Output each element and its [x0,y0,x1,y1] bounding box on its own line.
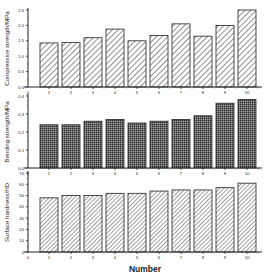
x-tick-label: 8 [202,90,205,95]
bar-6 [150,121,168,168]
bar-3 [84,121,102,168]
y-tick-label: 1.5 [18,38,24,43]
bar-6 [150,191,168,252]
y-axis-label: Compressive strength/MPa [3,11,10,86]
bar-4 [106,119,124,168]
x-tick-label: 3 [92,90,95,95]
bar-1 [40,43,58,87]
bar-8 [194,116,212,168]
x-tick-label: 6 [158,255,161,260]
x-tick-label: 7 [180,90,183,95]
x-tick-label-zero: 0 [27,255,30,260]
bar-8 [194,190,212,252]
bar-7 [172,24,190,87]
x-tick-label: 10 [245,255,250,260]
y-axis-label: Bending strength/MPa [3,101,10,163]
x-tick-label: 4 [114,90,117,95]
x-tick-label: 9 [224,90,227,95]
bar-1 [40,198,58,252]
bar-5 [128,123,146,168]
y-tick-label: 0.3 [18,112,24,117]
x-tick-label: 6 [158,171,161,176]
y-tick-label: 60 [19,182,24,187]
y-tick-label: 50 [19,193,24,198]
x-tick-label: 10 [245,90,250,95]
bar-3 [84,196,102,252]
bar-9 [216,25,234,87]
y-tick-label: 2.5 [18,8,24,13]
stacked-bar-charts: 0.00.51.01.52.02.5012345678910Compressiv… [0,0,266,279]
bar-7 [172,190,190,252]
bar-4 [106,29,124,87]
chart-panel-3: 010203040506070012345678910Surface hardn… [3,171,262,261]
y-tick-label: 30 [19,216,24,221]
y-tick-label: 2.0 [18,23,24,28]
bar-10 [238,100,256,168]
y-tick-label: 0.2 [18,130,24,135]
y-tick-label: 1.0 [18,54,24,59]
x-tick-label: 7 [180,171,183,176]
x-tick-label: 7 [180,255,183,260]
bar-9 [216,188,234,252]
bar-2 [62,125,80,168]
bar-7 [172,119,190,168]
x-tick-label: 2 [70,171,73,176]
y-axis-label: Surface hardness/HD [3,182,10,242]
y-tick-label: 10 [19,238,24,243]
bar-5 [128,41,146,87]
x-tick-label: 8 [202,171,205,176]
x-tick-label: 8 [202,255,205,260]
bar-10 [238,183,256,252]
x-tick-label: 5 [136,171,139,176]
bar-2 [62,42,80,87]
bar-6 [150,36,168,87]
bar-5 [128,193,146,252]
x-tick-label: 3 [92,171,95,176]
x-tick-label: 5 [136,90,139,95]
x-tick-label: 9 [224,171,227,176]
chart-panel-1: 0.00.51.01.52.02.5012345678910Compressiv… [3,8,262,96]
x-axis-title: Number [129,264,162,274]
x-tick-label: 4 [114,255,117,260]
x-tick-label: 5 [136,255,139,260]
x-tick-label: 2 [70,90,73,95]
x-tick-label: 9 [224,255,227,260]
x-tick-label: 1 [48,90,51,95]
x-tick-label: 3 [92,255,95,260]
y-tick-label: 0.1 [18,148,24,153]
bar-9 [216,103,234,168]
bar-8 [194,36,212,87]
x-tick-label: 1 [48,255,51,260]
bar-4 [106,193,124,252]
bar-10 [238,10,256,87]
x-tick-label: 2 [70,255,73,260]
x-tick-label: 1 [48,171,51,176]
y-tick-label: 0.0 [18,85,24,90]
chart-panel-2: 0.00.10.20.30.4012345678910Bending stren… [3,94,262,177]
x-tick-label: 10 [245,171,250,176]
x-tick-label: 4 [114,171,117,176]
y-tick-label: 40 [19,204,24,209]
y-tick-label: 0.4 [18,94,24,99]
y-tick-label: 0.5 [18,69,24,74]
bar-3 [84,38,102,87]
y-tick-label: 20 [19,227,24,232]
bar-1 [40,125,58,168]
y-tick-label: 70 [19,171,24,176]
x-tick-label: 6 [158,90,161,95]
bar-2 [62,196,80,252]
